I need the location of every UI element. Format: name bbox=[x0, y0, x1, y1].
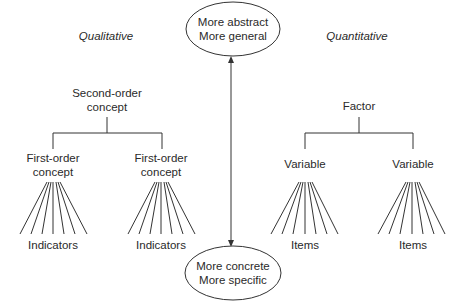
first-order-concept-node-1: First-order concept bbox=[26, 151, 79, 179]
items-fan-2 bbox=[378, 182, 445, 234]
indicators-label-1: Indicators bbox=[28, 238, 78, 252]
top-ellipse-label: More abstract More general bbox=[198, 15, 268, 43]
arrow-up-icon bbox=[228, 56, 234, 63]
qualitative-heading: Qualitative bbox=[79, 29, 133, 43]
items-label-2: Items bbox=[399, 238, 427, 252]
abstraction-diagram: Qualitative Quantitative More abstract M… bbox=[0, 0, 460, 302]
qualitative-bracket bbox=[53, 117, 162, 149]
factor-node: Factor bbox=[343, 99, 376, 113]
abstraction-axis-arrow bbox=[228, 56, 234, 247]
bottom-ellipse-label: More concrete More specific bbox=[196, 259, 270, 287]
second-order-line1: Second-order bbox=[72, 86, 142, 100]
quantitative-bracket bbox=[305, 117, 413, 149]
first-order-1-line1: First-order bbox=[26, 151, 79, 165]
bottom-ellipse-line1: More concrete bbox=[196, 259, 270, 273]
quantitative-heading: Quantitative bbox=[326, 29, 387, 43]
second-order-concept-node: Second-order concept bbox=[72, 86, 142, 114]
first-order-2-line2: concept bbox=[134, 165, 187, 179]
items-fan-1 bbox=[271, 182, 338, 234]
variable-node-1: Variable bbox=[284, 157, 325, 171]
top-ellipse-line1: More abstract bbox=[198, 15, 268, 29]
indicators-label-2: Indicators bbox=[136, 238, 186, 252]
top-ellipse-line2: More general bbox=[198, 29, 268, 43]
indicators-fan-2 bbox=[128, 182, 195, 234]
second-order-line2: concept bbox=[72, 100, 142, 114]
items-label-1: Items bbox=[291, 238, 319, 252]
first-order-1-line2: concept bbox=[26, 165, 79, 179]
bottom-ellipse-line2: More specific bbox=[196, 273, 270, 287]
indicators-fan-1 bbox=[20, 182, 87, 234]
variable-node-2: Variable bbox=[392, 157, 433, 171]
first-order-concept-node-2: First-order concept bbox=[134, 151, 187, 179]
first-order-2-line1: First-order bbox=[134, 151, 187, 165]
